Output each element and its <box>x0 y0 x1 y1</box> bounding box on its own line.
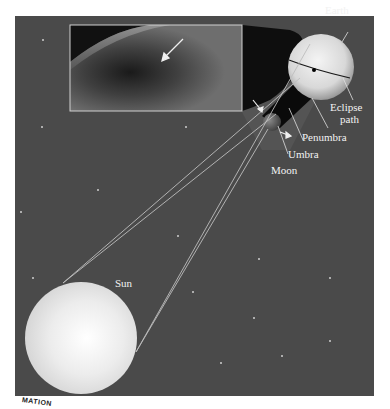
label-sun: Sun <box>115 277 132 289</box>
label-earth: Earth <box>325 4 349 16</box>
label-moon: Moon <box>271 164 297 176</box>
inset-photo <box>70 25 242 111</box>
diagram-canvas <box>0 0 390 409</box>
label-eclipse-path-1: Eclipse <box>330 101 362 113</box>
sun <box>25 282 137 394</box>
label-umbra: Umbra <box>288 148 319 160</box>
earth <box>288 34 354 100</box>
eclipse-point <box>312 68 316 72</box>
label-penumbra: Penumbra <box>302 131 347 143</box>
label-eclipse-path-2: path <box>340 113 359 125</box>
eclipse-diagram: Earth Eclipse path Penumbra Umbra Moon S… <box>0 0 390 409</box>
